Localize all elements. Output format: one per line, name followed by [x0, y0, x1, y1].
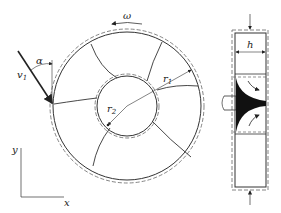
rotation-arrow [112, 23, 142, 25]
side-view: h [222, 14, 268, 205]
coordinate-axes: y x [11, 144, 70, 208]
hub-profile [236, 78, 266, 132]
shaft [224, 96, 236, 110]
svg-text:r1: r1 [163, 73, 172, 86]
svg-text:v1: v1 [17, 69, 27, 82]
svg-text:r2: r2 [107, 103, 117, 116]
svg-text:y: y [11, 144, 18, 155]
turbine-diagram: r1 r2 ω α v1 y x h [0, 0, 281, 213]
svg-text:ω: ω [123, 10, 131, 21]
r1-dimension [127, 70, 191, 106]
svg-text:α: α [36, 55, 43, 66]
svg-text:x: x [64, 197, 70, 208]
svg-text:h: h [247, 39, 253, 50]
front-view: r1 r2 ω α v1 [17, 10, 204, 183]
blades [54, 42, 198, 166]
